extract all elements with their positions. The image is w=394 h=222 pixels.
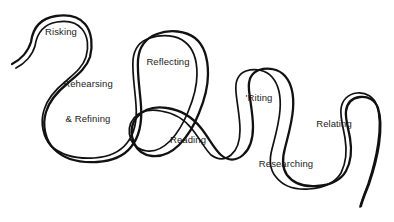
loop-label-relating: Relating: [316, 95, 352, 153]
loop-label-researching: Researching: [259, 135, 313, 193]
loop-label-line: Reflecting: [146, 56, 189, 68]
loop-label-line: Reading: [170, 134, 206, 146]
loop-label-reading: Reading: [170, 111, 206, 169]
loop-label-riting: 'Riting: [246, 69, 273, 127]
loop-label-rehearsing-refining: Rehearsing & Refining: [63, 55, 113, 147]
loop-label-line: Rehearsing: [63, 78, 113, 90]
ribbon-diagram-canvas: Risking Rehearsing & Refining Reflecting…: [0, 0, 394, 222]
loop-label-risking: Risking: [45, 3, 77, 61]
loop-label-line: Researching: [259, 158, 313, 170]
loop-label-line: Risking: [45, 26, 77, 38]
loop-label-reflecting: Reflecting: [146, 33, 189, 91]
loop-label-line: & Refining: [63, 113, 113, 125]
loop-label-line: Relating: [316, 118, 352, 130]
loop-label-line: 'Riting: [246, 92, 273, 104]
